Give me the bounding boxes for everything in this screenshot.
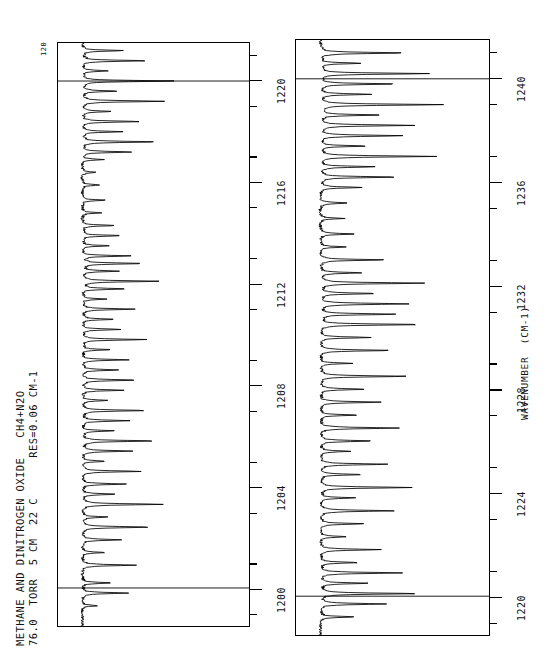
axis-tick-label: 1240 bbox=[516, 76, 527, 102]
axis-minor-tick bbox=[250, 55, 257, 56]
axis-tick-label: 1200 bbox=[276, 587, 287, 613]
axis-tick-label: 1236 bbox=[516, 180, 527, 206]
axis-major-tick bbox=[250, 284, 262, 285]
axis-minor-tick bbox=[250, 614, 257, 615]
axis-tick-label: 1208 bbox=[276, 383, 287, 409]
axis-major-tick bbox=[490, 493, 502, 494]
axis-minor-tick bbox=[490, 363, 497, 364]
axis-minor-tick bbox=[250, 411, 257, 412]
axis-major-tick bbox=[250, 385, 262, 386]
axis-minor-tick bbox=[250, 258, 257, 259]
axis-minor-tick bbox=[490, 312, 497, 313]
axis-tick-label: 1220 bbox=[516, 595, 527, 621]
axis-major-tick bbox=[490, 286, 502, 287]
axis-tick-label: 1216 bbox=[276, 180, 287, 206]
axis-minor-tick bbox=[490, 623, 497, 624]
axis-minor-tick bbox=[250, 309, 257, 310]
axis-major-tick bbox=[250, 182, 262, 183]
axis-minor-tick bbox=[490, 260, 497, 261]
y-axis-max-label: 120 bbox=[40, 42, 48, 56]
figure-subtitle: 76.0 TORR 5 CM 22 C RES=0.06 CM-1 bbox=[27, 370, 39, 646]
chart-panel-bottom bbox=[295, 39, 490, 636]
axis-minor-tick bbox=[490, 415, 497, 416]
figure-title: METHANE AND DINITROGEN OXIDE CH4+N2O bbox=[14, 391, 26, 646]
axis-minor-tick bbox=[490, 156, 497, 157]
axis-minor-tick bbox=[250, 513, 257, 514]
axis-major-tick bbox=[250, 589, 262, 590]
chart-panel-top bbox=[57, 42, 250, 627]
axis-tick-label: 1224 bbox=[516, 491, 527, 517]
axis-minor-tick bbox=[490, 571, 497, 572]
axis-major-tick bbox=[490, 389, 502, 390]
axis-minor-tick bbox=[490, 52, 497, 53]
x-axis-title: WAVENUMBER (CM-1) bbox=[519, 306, 530, 420]
axis-minor-tick bbox=[490, 467, 497, 468]
axis-minor-tick bbox=[490, 519, 497, 520]
axis-major-tick bbox=[250, 487, 262, 488]
axis-minor-tick bbox=[250, 563, 257, 564]
axis-minor-tick bbox=[250, 106, 257, 107]
axis-major-tick bbox=[490, 597, 502, 598]
spectrum-trace-top bbox=[58, 43, 249, 626]
axis-minor-tick bbox=[250, 156, 257, 157]
axis-tick-label: 1212 bbox=[276, 282, 287, 308]
axis-major-tick bbox=[490, 182, 502, 183]
axis-minor-tick bbox=[250, 360, 257, 361]
axis-tick-label: 1204 bbox=[276, 485, 287, 511]
axis-minor-tick bbox=[490, 104, 497, 105]
spectrum-trace-bottom bbox=[296, 40, 489, 635]
axis-major-tick bbox=[250, 80, 262, 81]
axis-minor-tick bbox=[250, 462, 257, 463]
axis-tick-label: 1220 bbox=[276, 78, 287, 104]
axis-major-tick bbox=[490, 78, 502, 79]
axis-minor-tick bbox=[490, 208, 497, 209]
axis-minor-tick bbox=[250, 207, 257, 208]
spectrum-figure: METHANE AND DINITROGEN OXIDE CH4+N2O 76.… bbox=[0, 0, 551, 658]
